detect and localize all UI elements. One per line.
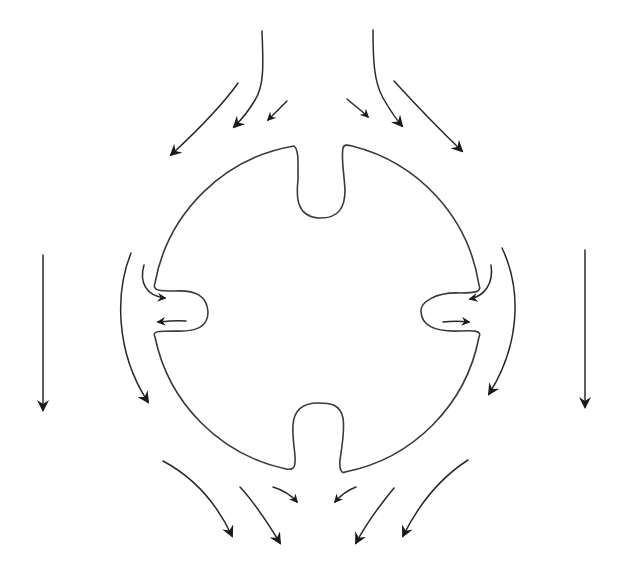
flow-arrow-top-left-main: [234, 31, 263, 127]
flow-arrow-bottom-left-outer: [163, 461, 232, 536]
notch-left-outflow-arrow: [158, 321, 186, 322]
flow-arrow-bottom-right-outer: [403, 460, 468, 536]
flow-arrow-top-right-outer: [394, 81, 462, 151]
diagram-canvas: [0, 0, 622, 564]
notch-right-inflow-arrow: [470, 265, 492, 299]
flow-arrow-right-side: [489, 248, 515, 394]
flow-arrow-left-side: [121, 253, 148, 402]
notch-left-inflow-arrow: [142, 265, 165, 298]
flow-arrow-bottom-left-inner: [273, 487, 297, 502]
flow-arrow-bottom-right-main: [356, 488, 394, 543]
flow-arrow-top-right-inner: [347, 99, 368, 117]
flow-arrow-top-left-inner: [268, 101, 287, 120]
flow-arrow-bottom-left-main: [240, 487, 280, 543]
notched-circle-body: [154, 145, 479, 472]
flow-arrow-top-left-outer: [171, 83, 238, 155]
notch-right-outflow-arrow: [443, 321, 469, 322]
flow-diagram: [0, 0, 622, 564]
flow-arrow-top-right-main: [373, 30, 402, 126]
flow-arrow-bottom-right-inner: [335, 487, 356, 502]
